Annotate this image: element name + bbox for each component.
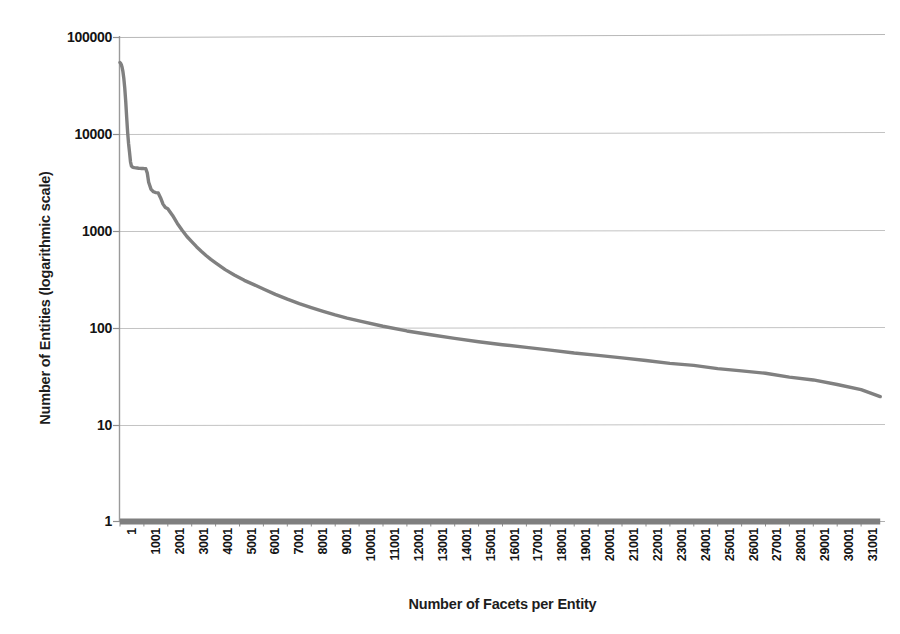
x-tick-label: 29001 (818, 528, 832, 561)
x-tick-label: 1001 (149, 528, 163, 555)
chart-container: Number of Entities (logarithmic scale) 1… (0, 0, 900, 634)
x-tick-label: 28001 (794, 528, 808, 561)
x-tick-label: 2001 (173, 528, 187, 555)
x-tick-label: 8001 (316, 528, 330, 555)
x-tick-label: 11001 (388, 528, 402, 561)
x-tick-label: 20001 (603, 528, 617, 561)
x-tick-label: 18001 (555, 528, 569, 561)
x-tick-label: 27001 (770, 528, 784, 561)
x-tick-label: 12001 (412, 528, 426, 561)
x-tick-label: 24001 (699, 528, 713, 561)
x-tick-label: 7001 (292, 528, 306, 555)
x-tick-label: 23001 (675, 528, 689, 561)
x-axis-title: Number of Facets per Entity (120, 596, 885, 612)
x-tick-label: 6001 (268, 528, 282, 555)
x-tick-label: 31001 (866, 528, 880, 561)
x-tick-label: 26001 (747, 528, 761, 561)
x-tick-label: 4001 (221, 528, 235, 555)
x-tick-label: 19001 (579, 528, 593, 561)
x-tick-label: 22001 (651, 528, 665, 561)
x-tick-label: 21001 (627, 528, 641, 561)
x-tick-label: 1 (125, 528, 139, 535)
x-tick-label: 9001 (340, 528, 354, 555)
x-tick-label: 10001 (364, 528, 378, 561)
x-tick-label: 13001 (436, 528, 450, 561)
x-tick-label: 17001 (531, 528, 545, 561)
x-tick-label: 30001 (842, 528, 856, 561)
x-tick-label: 3001 (197, 528, 211, 555)
x-tick-label: 14001 (460, 528, 474, 561)
x-tick-label: 15001 (484, 528, 498, 561)
x-axis-tick-labels: 1100120013001400150016001700180019001100… (0, 0, 900, 634)
x-tick-label: 16001 (508, 528, 522, 561)
x-tick-label: 5001 (245, 528, 259, 555)
x-tick-label: 25001 (723, 528, 737, 561)
